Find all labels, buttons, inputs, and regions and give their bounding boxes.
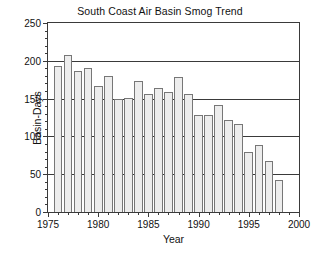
x-tick-major xyxy=(299,212,300,217)
x-tick-minor xyxy=(179,212,180,215)
y-tick-label: 150 xyxy=(24,93,41,104)
x-tick-label: 2000 xyxy=(288,219,310,230)
y-tick-label: 100 xyxy=(24,131,41,142)
x-tick-label: 1980 xyxy=(87,219,109,230)
x-tick-minor xyxy=(138,212,139,215)
bar xyxy=(265,161,274,212)
chart-title: South Coast Air Basin Smog Trend xyxy=(0,5,320,17)
bar xyxy=(255,145,264,212)
y-tick-label: 200 xyxy=(24,55,41,66)
x-tick-minor xyxy=(78,212,79,215)
x-tick-minor xyxy=(269,212,270,215)
bar xyxy=(164,92,173,212)
bar xyxy=(134,81,143,212)
bar xyxy=(194,115,203,212)
x-tick-label: 1975 xyxy=(37,219,59,230)
bar xyxy=(224,120,233,212)
x-tick-minor xyxy=(289,212,290,215)
bar xyxy=(154,88,163,212)
x-tick-minor xyxy=(209,212,210,215)
x-tick-label: 1990 xyxy=(187,219,209,230)
bar xyxy=(104,76,113,212)
bar xyxy=(54,66,63,212)
bar xyxy=(94,86,103,212)
x-tick-minor xyxy=(189,212,190,215)
x-tick-minor xyxy=(219,212,220,215)
x-tick-major xyxy=(199,212,200,217)
bar xyxy=(275,180,284,213)
smog-trend-chart: South Coast Air Basin Smog Trend Basin-D… xyxy=(0,0,320,260)
bar xyxy=(234,124,243,212)
x-tick-major xyxy=(98,212,99,217)
y-tick-label: 0 xyxy=(35,207,41,218)
x-tick-label: 1985 xyxy=(137,219,159,230)
y-tick-label: 250 xyxy=(24,18,41,29)
x-tick-minor xyxy=(128,212,129,215)
x-tick-major xyxy=(48,212,49,217)
x-tick-minor xyxy=(168,212,169,215)
x-tick-minor xyxy=(279,212,280,215)
bar xyxy=(174,77,183,212)
y-tick-label: 50 xyxy=(30,169,41,180)
x-tick-minor xyxy=(229,212,230,215)
plot-area: Basin-Days 050100150200250 1975198019851… xyxy=(47,22,300,213)
x-tick-minor xyxy=(68,212,69,215)
x-tick-minor xyxy=(158,212,159,215)
x-tick-minor xyxy=(88,212,89,215)
x-tick-major xyxy=(249,212,250,217)
bar xyxy=(214,105,223,212)
x-tick-label: 1995 xyxy=(238,219,260,230)
bar xyxy=(84,68,93,212)
bar xyxy=(184,94,193,212)
bar-series xyxy=(48,23,299,212)
bar xyxy=(114,99,123,212)
bar xyxy=(124,98,133,212)
bar xyxy=(64,55,73,212)
x-axis-title: Year xyxy=(48,233,299,245)
x-tick-minor xyxy=(108,212,109,215)
x-tick-minor xyxy=(118,212,119,215)
x-tick-minor xyxy=(239,212,240,215)
bar xyxy=(204,115,213,212)
bar xyxy=(144,94,153,212)
x-tick-minor xyxy=(259,212,260,215)
x-tick-minor xyxy=(58,212,59,215)
bar xyxy=(74,71,83,212)
bar xyxy=(244,152,253,212)
x-tick-major xyxy=(148,212,149,217)
